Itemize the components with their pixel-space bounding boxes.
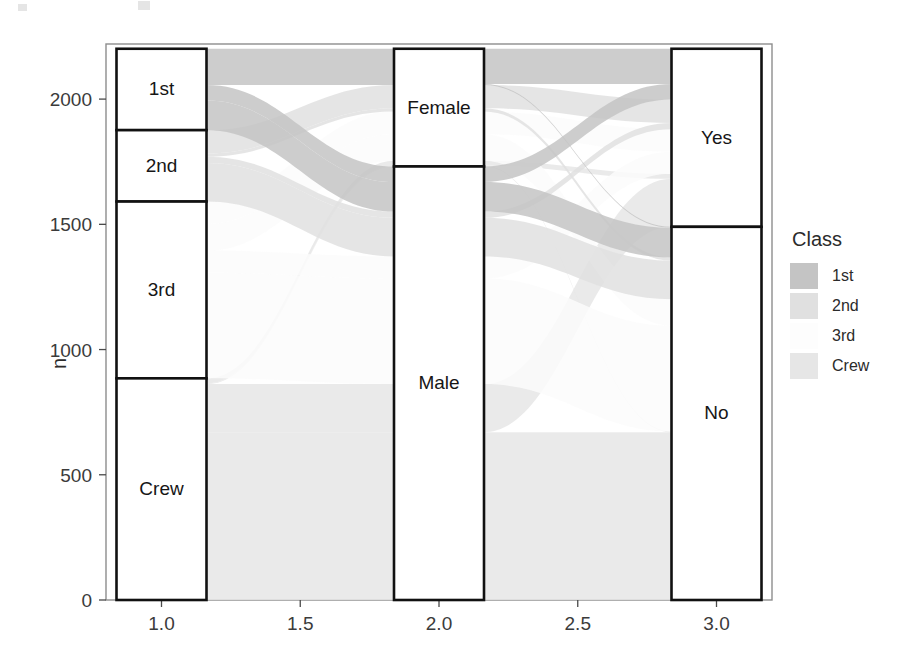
- legend-label: 3rd: [832, 327, 855, 345]
- stratum-box[interactable]: [672, 227, 762, 600]
- x-tick-label: 1.0: [148, 613, 174, 634]
- legend-label: 1st: [832, 267, 853, 285]
- flow-ribbon: [484, 49, 672, 84]
- legend-entries: 1st2nd3rdCrew: [790, 261, 902, 381]
- y-tick-label: 500: [60, 465, 92, 486]
- stratum-box[interactable]: [117, 130, 207, 201]
- legend-entry-1st[interactable]: 1st: [790, 261, 902, 291]
- legend-swatch: [790, 293, 818, 319]
- stratum-box[interactable]: [672, 49, 762, 227]
- legend-entry-2nd[interactable]: 2nd: [790, 291, 902, 321]
- x-tick-label: 2.0: [426, 613, 452, 634]
- legend-swatch: [790, 263, 818, 289]
- stratum-box[interactable]: [394, 49, 484, 167]
- legend-label: Crew: [832, 357, 869, 375]
- x-tick-label: 1.5: [287, 613, 313, 634]
- flow-ribbon: [207, 384, 395, 432]
- x-tick-label: 2.5: [565, 613, 591, 634]
- scan-artifact: [18, 4, 27, 11]
- y-axis-title: n: [48, 358, 71, 369]
- x-tick-label: 3.0: [703, 613, 729, 634]
- y-tick-label: 0: [81, 590, 92, 611]
- stratum-box[interactable]: [117, 49, 207, 130]
- stratum-box[interactable]: [394, 166, 484, 600]
- flow-ribbon: [207, 273, 395, 384]
- flow-ribbon: [207, 432, 395, 600]
- alluvial-figure: 05001000150020001.01.52.02.53.0 n Class …: [0, 0, 908, 668]
- legend-entry-crew[interactable]: Crew: [790, 351, 902, 381]
- flow-ribbon: [207, 84, 395, 85]
- legend-swatch: [790, 353, 818, 379]
- flow-ribbon: [484, 432, 672, 600]
- flow-ribbon: [207, 49, 395, 84]
- legend-swatch: [790, 323, 818, 349]
- legend-title: Class: [792, 228, 902, 251]
- legend: Class 1st2nd3rdCrew: [790, 228, 902, 381]
- stratum-box[interactable]: [117, 378, 207, 600]
- legend-entry-3rd[interactable]: 3rd: [790, 321, 902, 351]
- y-tick-label: 2000: [50, 89, 92, 110]
- legend-label: 2nd: [832, 297, 859, 315]
- scan-artifact: [138, 1, 150, 10]
- plot-canvas: 05001000150020001.01.52.02.53.0: [0, 0, 908, 668]
- stratum-box[interactable]: [117, 202, 207, 379]
- y-tick-label: 1500: [50, 214, 92, 235]
